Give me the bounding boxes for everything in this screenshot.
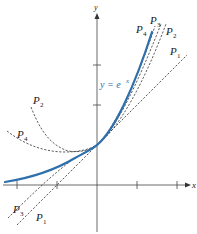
y-axis-label: y	[93, 3, 98, 12]
svg-text:P: P	[16, 128, 24, 140]
svg-text:3: 3	[157, 21, 161, 29]
x-axis-label: x	[191, 180, 196, 190]
svg-text:x: x	[125, 77, 130, 85]
p3-bottom-label: P 3	[12, 203, 24, 218]
svg-text:P: P	[32, 94, 40, 106]
svg-text:P: P	[12, 203, 20, 215]
p4-top-label: P 4	[135, 23, 147, 38]
svg-text:1: 1	[43, 218, 47, 226]
svg-text:4: 4	[24, 135, 28, 143]
p4-curve	[7, 26, 155, 152]
svg-text:P: P	[169, 45, 177, 57]
svg-text:4: 4	[143, 30, 147, 38]
svg-text:P: P	[165, 25, 173, 37]
p2-left-label: P 2	[32, 94, 44, 109]
exp-curve	[5, 32, 152, 182]
svg-text:P: P	[35, 211, 43, 223]
y-axis-arrow-icon	[95, 13, 100, 19]
p1-top-label: P 1	[169, 45, 181, 60]
axes	[3, 13, 191, 232]
svg-text:2: 2	[40, 101, 44, 109]
svg-text:3: 3	[20, 210, 24, 218]
svg-text:y = e: y = e	[99, 79, 121, 90]
p1-bottom-label: P 1	[35, 211, 47, 226]
svg-text:P: P	[135, 23, 143, 35]
x-axis-arrow-icon	[185, 183, 191, 188]
exp-label: y = e x	[99, 77, 130, 90]
taylor-polynomial-chart: x y y = e x P 4 P 3 P 2 P 1 P 2 P 4 P 3 …	[0, 0, 197, 234]
svg-text:2: 2	[173, 32, 177, 40]
svg-text:P: P	[149, 14, 157, 26]
svg-text:1: 1	[177, 52, 181, 60]
p4-left-label: P 4	[16, 128, 28, 143]
p2-curve	[31, 24, 166, 152]
p2-top-label: P 2	[165, 25, 177, 40]
p3-curve	[8, 24, 161, 218]
